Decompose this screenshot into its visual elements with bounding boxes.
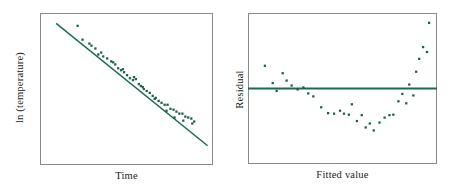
data-point <box>361 114 363 116</box>
data-point <box>193 120 195 122</box>
data-point <box>405 102 407 104</box>
data-point <box>320 106 322 108</box>
data-point <box>138 83 140 85</box>
data-point <box>160 102 162 104</box>
data-point <box>190 117 192 119</box>
data-point <box>418 58 420 60</box>
data-point <box>307 92 309 94</box>
data-point <box>378 121 380 123</box>
data-point <box>173 116 175 118</box>
data-point <box>117 67 119 69</box>
data-point <box>392 114 394 116</box>
data-point <box>112 61 114 63</box>
data-point <box>422 46 424 48</box>
log-temperature-vs-time-scatter: ln (temperature) Time <box>0 0 228 192</box>
x-axis-label-right: Fitted value <box>248 169 437 180</box>
data-point <box>290 84 292 86</box>
data-point <box>135 78 137 80</box>
data-point <box>191 122 193 124</box>
data-point <box>90 45 92 47</box>
data-point <box>339 110 341 112</box>
data-point <box>175 111 177 113</box>
data-point <box>184 115 186 117</box>
data-point <box>282 72 284 74</box>
data-point <box>76 25 78 27</box>
data-point <box>165 110 167 112</box>
data-point <box>110 60 112 62</box>
data-point <box>181 112 183 114</box>
data-point <box>166 104 168 106</box>
data-point <box>178 112 180 114</box>
data-point <box>88 42 90 44</box>
x-axis-label-left: Time <box>40 170 213 181</box>
data-point <box>126 74 128 76</box>
data-point <box>169 108 171 110</box>
data-point <box>97 53 99 55</box>
data-point <box>133 76 135 78</box>
data-point <box>415 71 417 73</box>
data-point <box>428 22 430 24</box>
data-point <box>81 39 83 41</box>
data-point <box>369 122 371 124</box>
data-point <box>154 98 156 100</box>
data-point <box>122 68 124 70</box>
data-point <box>102 55 104 57</box>
data-point <box>146 90 148 92</box>
data-point <box>285 79 287 81</box>
data-point <box>312 95 314 97</box>
data-point <box>333 113 335 115</box>
data-point <box>143 88 145 90</box>
data-point <box>401 93 403 95</box>
residual-plot-canvas-right <box>249 14 436 163</box>
data-point <box>426 51 428 53</box>
data-point <box>343 113 345 115</box>
data-point <box>163 104 165 106</box>
data-point <box>129 77 131 79</box>
data-point <box>327 112 329 114</box>
data-point <box>158 100 160 102</box>
data-point <box>172 109 174 111</box>
data-point <box>397 100 399 102</box>
data-point <box>94 47 96 49</box>
data-point <box>100 51 102 53</box>
data-point <box>373 129 375 131</box>
data-point <box>142 86 144 88</box>
data-point <box>302 86 304 88</box>
data-point <box>152 95 154 97</box>
y-axis-label-left: ln (temperature) <box>14 36 25 140</box>
data-point <box>348 114 350 116</box>
data-point <box>114 63 116 65</box>
data-point <box>182 120 184 122</box>
data-point <box>276 90 278 92</box>
data-point <box>383 116 385 118</box>
data-point <box>408 83 410 85</box>
data-point <box>272 82 274 84</box>
two-panel-figure: ln (temperature) Time Residual Fitted va… <box>0 0 455 192</box>
plot-frame-left <box>40 13 213 165</box>
data-point <box>187 116 189 118</box>
y-axis-label-right: Residual <box>234 61 245 119</box>
data-point <box>351 103 353 105</box>
data-point <box>106 57 108 59</box>
data-point <box>356 120 358 122</box>
data-point <box>412 94 414 96</box>
data-point <box>388 114 390 116</box>
data-point <box>296 88 298 90</box>
data-point <box>123 71 125 73</box>
data-point <box>149 92 151 94</box>
least-squares-fit-line <box>57 24 207 145</box>
data-point <box>264 65 266 67</box>
data-point <box>365 126 367 128</box>
scatter-plot-canvas-left <box>41 14 212 164</box>
data-point <box>132 79 134 81</box>
plot-frame-right <box>248 13 437 164</box>
residual-vs-fitted-value-plot: Residual Fitted value <box>228 0 455 192</box>
